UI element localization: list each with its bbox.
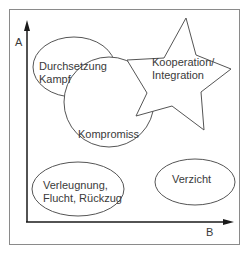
verleugnung-line2: Flucht, Rückzug: [43, 192, 122, 205]
durchsetzung-line1: Durchsetzung: [39, 60, 107, 73]
kooperation-line1: Kooperation/: [152, 56, 214, 69]
durchsetzung-line2: Kampf: [39, 73, 107, 86]
x-axis-arrow-icon: [223, 219, 234, 225]
durchsetzung-label: Durchsetzung Kampf: [39, 60, 107, 86]
verleugnung-label: Verleugnung, Flucht, Rückzug: [43, 179, 122, 205]
y-axis-label: A: [15, 36, 22, 48]
x-axis-label: B: [206, 226, 213, 238]
y-axis-arrow-icon: [24, 20, 30, 31]
verzicht-label: Verzicht: [172, 173, 211, 186]
kooperation-line2: Integration: [152, 69, 214, 82]
kooperation-label: Kooperation/ Integration: [152, 56, 214, 82]
verleugnung-line1: Verleugnung,: [43, 179, 122, 192]
diagram-canvas: [0, 0, 250, 254]
kompromiss-label: Kompromiss: [78, 128, 139, 141]
